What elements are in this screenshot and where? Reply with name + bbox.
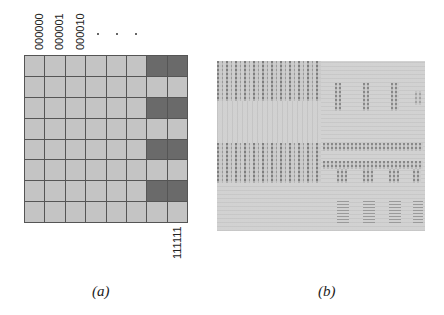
column-label-1: 000001 (49, 2, 69, 50)
caption-b: (b) (318, 283, 336, 300)
grid-cell (127, 181, 146, 201)
dot-row (323, 161, 423, 169)
dot-block (363, 83, 369, 111)
grid-cell (147, 119, 166, 139)
grid-cell (147, 160, 166, 180)
grid-cell (45, 202, 64, 222)
grid-cell (66, 140, 85, 160)
grid-cell (127, 202, 146, 222)
grid-cell (127, 119, 146, 139)
grid-cell (168, 98, 187, 118)
grid-cell (66, 56, 85, 76)
grid-cell (107, 202, 126, 222)
grid-cell (86, 119, 105, 139)
grid-cell (147, 140, 166, 160)
column-label-0: 000000 (29, 2, 49, 50)
stripe-region-mid-left (217, 143, 321, 183)
hbar-block (337, 201, 349, 223)
last-column-label: 111111 (168, 226, 186, 274)
dot-row (323, 143, 423, 151)
grid-cell (86, 160, 105, 180)
grid-cell (25, 202, 44, 222)
texture-image (217, 61, 425, 231)
ellipsis-dot (135, 33, 137, 35)
grid-cell (45, 160, 64, 180)
grid-cell (25, 140, 44, 160)
grid-cell (66, 77, 85, 97)
grid-cell (127, 160, 146, 180)
dot-block (389, 169, 399, 183)
grid-cell (107, 181, 126, 201)
grid-cell (168, 202, 187, 222)
grid-cell (168, 119, 187, 139)
grid-cell (66, 202, 85, 222)
grid-cell (66, 181, 85, 201)
caption-a: (a) (92, 283, 110, 300)
grid-cell (86, 77, 105, 97)
grid-cell (45, 98, 64, 118)
grid-cell (45, 181, 64, 201)
grid-cell (107, 119, 126, 139)
stripe-region-top-left (217, 61, 321, 101)
grid-cell (25, 160, 44, 180)
dot-block (363, 169, 373, 183)
ellipsis-dot (116, 33, 118, 35)
grid-cell (107, 160, 126, 180)
hbar-block (413, 201, 423, 223)
grid-cell (147, 56, 166, 76)
grid-cell (107, 140, 126, 160)
grid-cell (86, 140, 105, 160)
grid-cell (25, 181, 44, 201)
grid-cell (168, 160, 187, 180)
ellipsis-dot (97, 33, 99, 35)
grid-cell (45, 140, 64, 160)
faint-region-left (217, 101, 321, 143)
grid-cell (45, 119, 64, 139)
grid-cell (168, 77, 187, 97)
grid-cell (168, 181, 187, 201)
grid-cell (168, 56, 187, 76)
grid-cell (127, 140, 146, 160)
grid-cell (45, 77, 64, 97)
grid-cell (107, 56, 126, 76)
hbar-block (363, 201, 375, 223)
grid-cell (25, 98, 44, 118)
dot-block (335, 83, 341, 111)
grid-cell (66, 119, 85, 139)
grid-cell (25, 77, 44, 97)
grid-cell (45, 56, 64, 76)
grid-cell (147, 181, 166, 201)
binary-grid (24, 55, 188, 223)
grid-cell (107, 77, 126, 97)
grid-cell (147, 77, 166, 97)
faint-region-bottom-left (217, 183, 321, 231)
hbar-block (389, 201, 401, 223)
dot-block (337, 169, 347, 183)
grid-cell (127, 77, 146, 97)
grid-cell (66, 160, 85, 180)
grid-cell (86, 56, 105, 76)
dot-block (415, 91, 421, 105)
grid-cell (25, 56, 44, 76)
grid-cell (86, 181, 105, 201)
grid-cell (107, 98, 126, 118)
grid-cell (168, 140, 187, 160)
grid-cell (127, 56, 146, 76)
grid-cell (147, 202, 166, 222)
grid-cell (127, 98, 146, 118)
grid-cell (86, 202, 105, 222)
column-label-2: 000010 (70, 2, 90, 50)
grid-cell (86, 98, 105, 118)
dot-block (391, 83, 399, 111)
grid-cell (25, 119, 44, 139)
grid-cell (147, 98, 166, 118)
grid-cell (66, 98, 85, 118)
dot-block (413, 169, 421, 183)
